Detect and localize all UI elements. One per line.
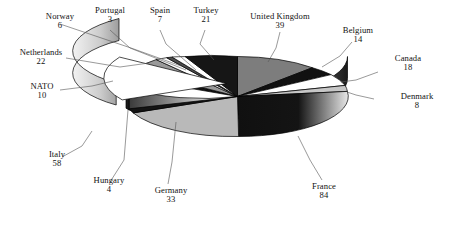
label-spain-value: 7 [136, 15, 184, 24]
label-united-kingdom-value: 39 [236, 21, 324, 30]
pie-chart: Norway 6 Portugal 3 Spain 7 Turkey 21 Un… [0, 0, 449, 227]
label-denmark: Denmark 8 [388, 92, 446, 111]
label-hungary: Hungary 4 [80, 176, 138, 195]
leader-united-kingdom [268, 32, 280, 62]
label-france-value: 84 [300, 191, 348, 200]
label-canada-value: 18 [382, 63, 434, 72]
label-spain: Spain 7 [136, 6, 184, 25]
leader-france [298, 136, 322, 180]
label-portugal-value: 3 [80, 15, 140, 24]
label-italy-value: 58 [38, 159, 76, 168]
label-turkey-value: 21 [182, 15, 230, 24]
label-nato-value: 10 [20, 91, 64, 100]
label-portugal: Portugal 3 [80, 6, 140, 25]
leader-denmark [347, 92, 374, 99]
leader-germany [168, 122, 176, 184]
pie-top-faces [104, 55, 348, 136]
label-united-kingdom: United Kingdom 39 [236, 12, 324, 31]
leader-hungary [110, 110, 128, 182]
label-germany-value: 33 [142, 195, 200, 204]
label-france: France 84 [300, 182, 348, 201]
label-hungary-value: 4 [80, 185, 138, 194]
label-belgium-value: 14 [330, 35, 386, 44]
label-denmark-value: 8 [388, 101, 446, 110]
label-italy: Italy 58 [38, 150, 76, 169]
label-germany: Germany 33 [142, 186, 200, 205]
label-belgium: Belgium 14 [330, 26, 386, 45]
label-netherlands: Netherlands 22 [8, 48, 74, 67]
label-canada: Canada 18 [382, 54, 434, 73]
slice-france [238, 91, 349, 136]
label-netherlands-value: 22 [8, 57, 74, 66]
label-turkey: Turkey 21 [182, 6, 230, 25]
label-nato: NATO 10 [20, 82, 64, 101]
